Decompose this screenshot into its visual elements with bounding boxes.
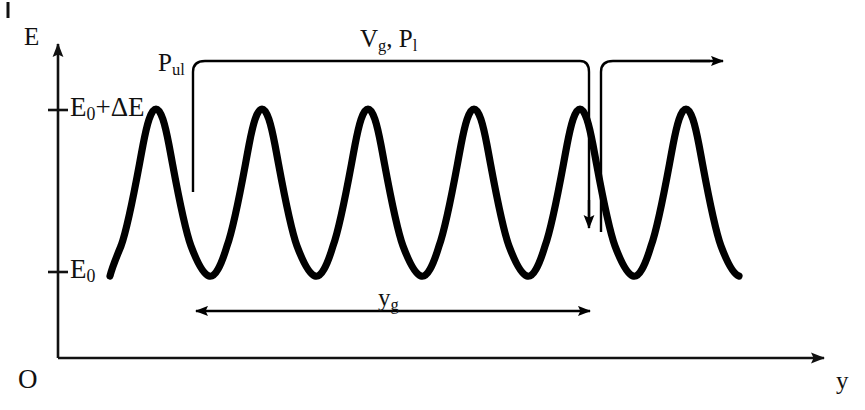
figure-root: E y O E0+ΔE E0 Pul Vg, Pl yg xyxy=(0,0,865,410)
potential-energy-curve xyxy=(110,109,739,276)
y-axis-label: E xyxy=(24,24,39,49)
flow-path-label: Vg, Pl xyxy=(360,26,417,55)
exit-output-path xyxy=(601,61,710,232)
origin-label: O xyxy=(18,366,38,393)
tick-label-upper-energy: E0+ΔE xyxy=(70,94,145,124)
tick-lower-sub: 0 xyxy=(87,266,96,286)
flow-label-sub2: l xyxy=(413,36,418,55)
tick-upper-tail: +ΔE xyxy=(95,92,144,122)
span-label-sub: g xyxy=(391,295,399,314)
tick-label-lower-energy: E0 xyxy=(70,256,95,286)
x-axis-label: y xyxy=(836,368,849,393)
energy-landscape-diagram xyxy=(0,0,865,410)
pump-label-main: P xyxy=(158,49,172,76)
span-label-main: y xyxy=(378,284,391,311)
tick-lower-main: E xyxy=(70,254,87,284)
flow-label-mid: , P xyxy=(386,25,412,52)
pump-path-label: Pul xyxy=(158,50,185,79)
tick-upper-main: E xyxy=(70,92,87,122)
flow-label-main: V xyxy=(360,25,378,52)
span-label: yg xyxy=(378,285,399,314)
pump-label-sub: ul xyxy=(172,60,185,79)
